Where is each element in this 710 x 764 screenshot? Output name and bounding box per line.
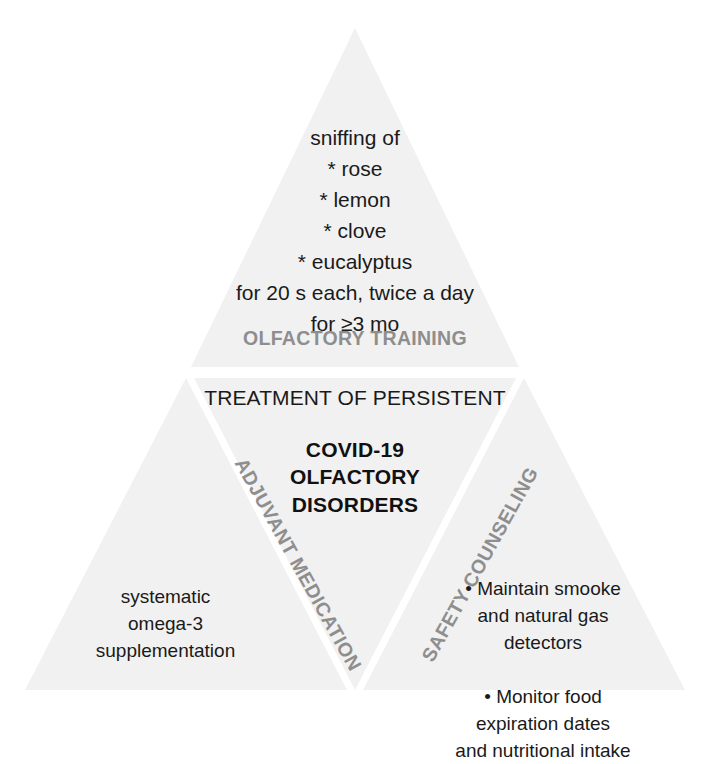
olfactory-training-body: sniffing of * rose * lemon * clove * euc… (185, 122, 525, 340)
center-kicker-text: TREATMENT OF PERSISTENT (190, 384, 520, 411)
adjuvant-medication-body: systematic omega-3 supplementation (58, 584, 273, 665)
triangle-diagram: sniffing of * rose * lemon * clove * euc… (0, 0, 710, 764)
olfactory-training-label: OLFACTORY TRAINING (185, 326, 525, 351)
